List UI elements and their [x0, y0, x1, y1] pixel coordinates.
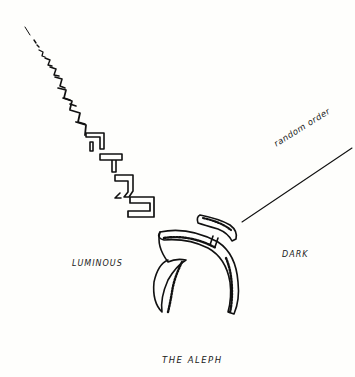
figure-caption: THE ALEPH	[162, 355, 223, 365]
aleph-drawing	[0, 0, 355, 377]
random-order-line	[242, 148, 352, 222]
dark-label: DARK	[282, 250, 308, 259]
letter-chain	[25, 27, 154, 217]
luminous-label: LUMINOUS	[72, 259, 123, 268]
aleph-glyph	[154, 215, 239, 314]
